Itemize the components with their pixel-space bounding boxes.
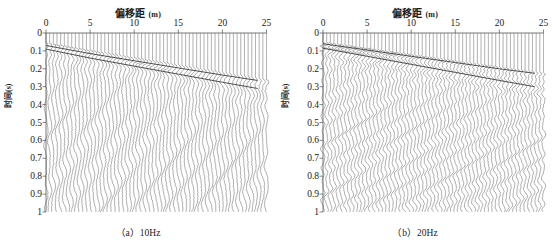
panel-a-10hz: 偏移距 (m) 时间(s) 0510152025 00.10.20.30.40.… xyxy=(0,0,276,245)
seismic-trace xyxy=(70,33,76,212)
seismic-trace xyxy=(427,33,433,212)
seismic-trace xyxy=(519,33,524,212)
seismic-trace xyxy=(216,33,221,212)
seismic-trace xyxy=(409,33,414,212)
seismic-trace xyxy=(209,33,214,212)
seismic-trace xyxy=(223,33,228,212)
seismic-trace xyxy=(194,33,199,212)
seismic-trace xyxy=(205,33,210,212)
seismic-trace xyxy=(176,33,181,212)
seismic-trace xyxy=(235,33,239,212)
seismic-trace xyxy=(405,33,411,212)
seismic-trace xyxy=(345,33,352,212)
seismic-trace xyxy=(190,33,195,212)
seismic-trace xyxy=(464,33,469,212)
seismic-trace xyxy=(468,33,473,212)
seismic-trace xyxy=(48,33,53,212)
seismic-trace xyxy=(239,33,243,212)
seismic-trace xyxy=(257,33,262,212)
seismic-trace xyxy=(442,33,447,212)
seismic-trace xyxy=(324,33,330,212)
seismic-trace xyxy=(168,33,174,212)
seismic-shot-gather-figure: 偏移距 (m) 时间(s) 0510152025 00.10.20.30.40.… xyxy=(0,0,553,245)
seismic-trace xyxy=(338,33,344,212)
seismic-trace xyxy=(243,33,248,212)
seismic-trace xyxy=(91,33,97,212)
seismic-trace xyxy=(102,33,108,212)
seismic-trace xyxy=(512,33,517,212)
seismic-trace xyxy=(357,33,363,212)
seismic-trace xyxy=(479,33,484,212)
wiggle-plot-a xyxy=(0,0,276,245)
wiggle-plot-b xyxy=(277,0,553,245)
seismic-trace xyxy=(493,33,498,212)
seismic-trace xyxy=(80,33,86,212)
seismic-trace xyxy=(164,33,170,212)
seismic-trace xyxy=(84,33,90,212)
seismic-trace xyxy=(201,33,206,212)
seismic-trace xyxy=(341,33,348,212)
seismic-trace xyxy=(541,33,546,212)
seismic-trace xyxy=(187,33,192,212)
seismic-trace xyxy=(250,33,255,212)
panel-b-caption: （b）20Hz xyxy=(277,225,553,239)
seismic-trace xyxy=(253,33,258,212)
seismic-trace xyxy=(412,33,418,212)
seismic-trace xyxy=(114,33,119,212)
seismic-trace xyxy=(460,33,465,212)
seismic-trace xyxy=(490,33,495,212)
seismic-trace xyxy=(180,33,185,212)
seismic-trace xyxy=(508,33,513,212)
seismic-trace xyxy=(486,33,491,212)
seismic-trace xyxy=(482,33,487,212)
seismic-trace xyxy=(146,33,151,212)
seismic-trace xyxy=(161,33,166,212)
seismic-trace xyxy=(453,33,458,212)
seismic-trace xyxy=(184,33,189,212)
seismic-trace xyxy=(530,33,534,212)
seismic-trace xyxy=(331,33,336,212)
seismic-trace xyxy=(534,33,539,212)
seismic-trace xyxy=(475,33,480,212)
seismic-trace xyxy=(523,33,528,212)
seismic-trace xyxy=(135,33,141,212)
seismic-trace xyxy=(59,33,64,212)
seismic-trace xyxy=(449,33,454,212)
seismic-trace xyxy=(51,33,56,212)
seismic-trace xyxy=(198,33,203,212)
seismic-trace xyxy=(232,33,237,212)
seismic-trace xyxy=(537,33,542,212)
seismic-trace xyxy=(219,33,224,212)
seismic-trace xyxy=(501,33,506,212)
seismic-trace xyxy=(172,33,177,212)
trace-group xyxy=(44,33,269,212)
seismic-trace xyxy=(260,33,265,212)
panel-a-caption: （a）10Hz xyxy=(0,225,276,239)
panel-b-20hz: 偏移距 (m) 时间(s) 0510152025 00.10.20.30.40.… xyxy=(277,0,553,245)
seismic-trace xyxy=(228,33,233,212)
seismic-trace xyxy=(471,33,476,212)
seismic-trace xyxy=(264,33,269,212)
